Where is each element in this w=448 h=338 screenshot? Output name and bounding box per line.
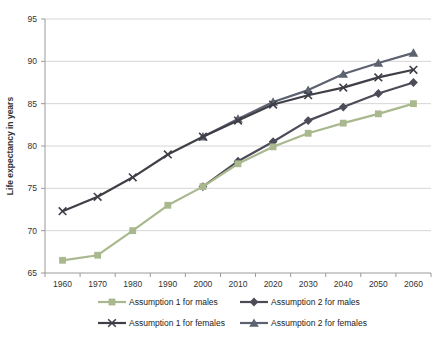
y-tick-label-80: 80 [28,141,38,151]
y-axis-tick-labels: 65707580859095 [28,14,38,278]
gridlines [45,19,431,231]
y-tick-label-95: 95 [28,14,38,24]
square-marker-icon [164,202,171,209]
legend-label: Assumption 1 for males [129,297,218,307]
legend-item-assumption-2-for-males: Assumption 2 for males [240,297,360,307]
square-marker-icon [94,252,101,259]
x-tick-label-2060: 2060 [404,279,423,289]
x-axis-tick-labels: 1960197019801990200020102020203020402050… [53,279,423,289]
square-marker-icon [235,160,242,167]
square-marker-icon [200,183,207,190]
x-tick-label-2030: 2030 [299,279,318,289]
square-marker-icon [109,299,116,306]
legend-label: Assumption 1 for females [129,318,225,328]
legend-item-assumption-2-for-females: Assumption 2 for females [240,318,367,328]
x-tick-label-1960: 1960 [53,279,72,289]
square-marker-icon [410,100,417,107]
chart-series [59,48,419,263]
square-marker-icon [340,120,347,127]
x-tick-label-2040: 2040 [334,279,353,289]
y-tick-label-75: 75 [28,183,38,193]
x-tick-label-2050: 2050 [369,279,388,289]
series-assumption-1-for-males [59,100,417,263]
y-tick-label-70: 70 [28,226,38,236]
square-marker-icon [375,110,382,117]
square-marker-icon [305,130,312,137]
life-expectancy-line-chart: 1960197019801990200020102020203020402050… [0,0,448,338]
chart-page: 1960197019801990200020102020203020402050… [0,0,448,338]
diamond-marker-icon [250,298,259,307]
legend-label: Assumption 2 for females [271,318,367,328]
x-tick-label-2010: 2010 [229,279,248,289]
y-tick-label-90: 90 [28,56,38,66]
legend-label: Assumption 2 for males [271,297,360,307]
axes [41,19,431,277]
square-marker-icon [59,257,66,264]
x-marker-icon [129,174,137,182]
x-tick-label-1980: 1980 [123,279,142,289]
x-tick-label-2020: 2020 [264,279,283,289]
square-marker-icon [270,143,277,150]
x-tick-label-1970: 1970 [88,279,107,289]
series-line-assumption-1-for-females [63,70,414,211]
triangle-marker-icon [409,48,419,56]
diamond-marker-icon [409,78,418,87]
x-tick-label-2000: 2000 [193,279,212,289]
legend-item-assumption-1-for-males: Assumption 1 for males [98,297,218,307]
x-tick-label-1990: 1990 [158,279,177,289]
legend-item-assumption-1-for-females: Assumption 1 for females [98,318,225,328]
legend: Assumption 1 for malesAssumption 2 for m… [98,297,367,328]
diamond-marker-icon [374,89,383,98]
series-assumption-1-for-females [59,66,418,215]
y-tick-label-85: 85 [28,99,38,109]
square-marker-icon [129,227,136,234]
y-tick-label-65: 65 [28,268,38,278]
x-marker-icon [164,151,172,159]
y-axis-title: Life expectancy in years [5,97,15,196]
series-line-assumption-1-for-males [63,104,414,261]
